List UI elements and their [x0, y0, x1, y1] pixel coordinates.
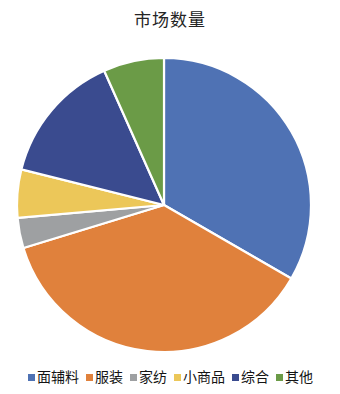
legend-swatch-icon [130, 374, 137, 381]
chart-legend: 面辅料服装家纺小商品综合其他 [0, 366, 340, 388]
legend-item[interactable]: 面辅料 [28, 369, 79, 385]
legend-item[interactable]: 服装 [86, 369, 123, 385]
pie-slice-group [17, 58, 311, 352]
legend-swatch-icon [232, 374, 239, 381]
legend-item[interactable]: 小商品 [174, 369, 225, 385]
chart-title: 市场数量 [0, 8, 340, 32]
legend-item[interactable]: 综合 [232, 369, 269, 385]
pie-svg [0, 40, 340, 358]
legend-item-label: 小商品 [183, 369, 225, 385]
legend-item-label: 其他 [285, 369, 313, 385]
legend-item[interactable]: 家纺 [130, 369, 167, 385]
legend-item-label: 家纺 [139, 369, 167, 385]
pie-plot-area [0, 40, 340, 358]
legend-item-label: 面辅料 [37, 369, 79, 385]
legend-item[interactable]: 其他 [276, 369, 313, 385]
legend-item-label: 服装 [95, 369, 123, 385]
legend-swatch-icon [86, 374, 93, 381]
legend-item-label: 综合 [241, 369, 269, 385]
legend-swatch-icon [174, 374, 181, 381]
pie-chart-figure: 市场数量 面辅料服装家纺小商品综合其他 [0, 0, 340, 394]
legend-swatch-icon [276, 374, 283, 381]
legend-swatch-icon [28, 374, 35, 381]
